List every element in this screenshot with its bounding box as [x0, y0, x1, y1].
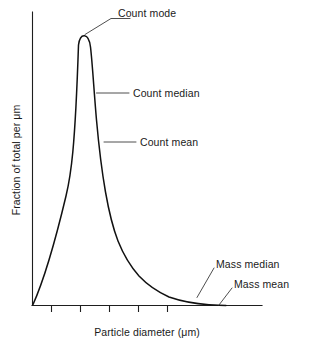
annotation-count-mode: Count mode [85, 7, 176, 35]
mass-median-label: Mass median [216, 258, 280, 270]
distribution-curve-group [33, 36, 226, 306]
chart-canvas: Count mode Count median Count mean Mass … [0, 0, 319, 351]
count-median-label: Count median [133, 87, 200, 99]
annotation-count-median: Count median [97, 87, 200, 99]
mass-mean-label: Mass mean [234, 278, 289, 290]
mass-mean-leader-line [219, 288, 232, 305]
particle-size-distribution-figure: Count mode Count median Count mean Mass … [0, 0, 319, 351]
y-axis-label: Fraction of total per μm [10, 105, 22, 216]
distribution-curve [33, 36, 226, 306]
x-axis-ticks [52, 306, 168, 312]
count-mode-leader-line [85, 19, 130, 35]
count-mean-label: Count mean [140, 136, 198, 148]
mass-median-leader-line [197, 268, 214, 298]
annotation-count-mean: Count mean [104, 136, 198, 148]
annotation-mass-mean: Mass mean [219, 278, 289, 305]
count-mode-label: Count mode [118, 7, 176, 19]
x-axis-label: Particle diameter (μm) [94, 326, 200, 338]
